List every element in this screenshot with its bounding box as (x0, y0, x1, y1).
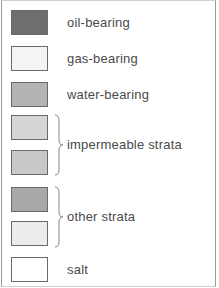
brace-icon (54, 186, 64, 248)
swatch-impermeable-strata-2 (11, 150, 48, 175)
label-impermeable-strata: impermeable strata (67, 137, 182, 153)
label-gas-bearing: gas-bearing (67, 51, 138, 67)
swatch-gas-bearing (11, 46, 48, 71)
swatch-other-strata-2 (11, 221, 48, 246)
swatch-impermeable-strata-1 (11, 115, 48, 140)
label-other-strata: other strata (67, 209, 135, 225)
swatch-water-bearing (11, 82, 48, 107)
brace-icon (54, 114, 64, 176)
swatch-other-strata-1 (11, 187, 48, 212)
swatch-salt (11, 257, 48, 282)
label-water-bearing: water-bearing (67, 87, 149, 103)
label-salt: salt (67, 262, 88, 278)
label-oil-bearing: oil-bearing (67, 15, 130, 31)
swatch-oil-bearing (11, 10, 48, 35)
